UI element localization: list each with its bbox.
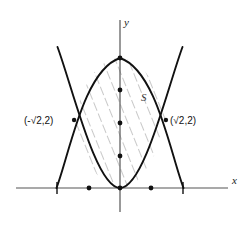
point-0-1: [118, 154, 123, 159]
point-minus1-0: [87, 186, 92, 191]
intersection-label-right: (√2,2): [170, 115, 196, 126]
intersection-right-point: [164, 118, 168, 122]
point-origin: [118, 186, 123, 191]
point-0-3: [118, 88, 123, 93]
region-label-s: S: [141, 91, 147, 103]
x-axis-label: x: [231, 174, 237, 186]
intersection-label-left: (-√2,2): [24, 115, 53, 126]
point-0-4: [118, 56, 123, 61]
figure-canvas: y x S (-√2,2) (√2,2): [0, 0, 250, 236]
y-axis-label: y: [123, 16, 129, 28]
math-figure: y x S (-√2,2) (√2,2): [0, 0, 250, 236]
intersection-left-point: [72, 118, 76, 122]
point-0-2: [118, 121, 123, 126]
point-1-0: [149, 186, 154, 191]
